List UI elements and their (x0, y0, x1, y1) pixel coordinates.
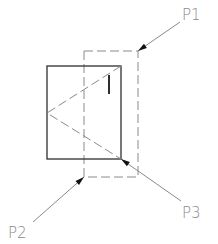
arrowhead-icon (138, 44, 147, 51)
dashed-rectangle (84, 51, 138, 177)
leader-p2 (33, 177, 84, 222)
point-label-p2: P2 (8, 224, 27, 242)
leader-p1 (138, 22, 180, 51)
arrowhead-icon (121, 159, 130, 166)
diagram-canvas: P1P2P3 (0, 0, 218, 244)
point-labels: P1P2P3 (8, 6, 201, 242)
leader-p3 (121, 159, 181, 201)
point-leaders (33, 22, 181, 222)
point-label-p3: P3 (182, 204, 201, 222)
point-label-p1: P1 (182, 6, 201, 24)
